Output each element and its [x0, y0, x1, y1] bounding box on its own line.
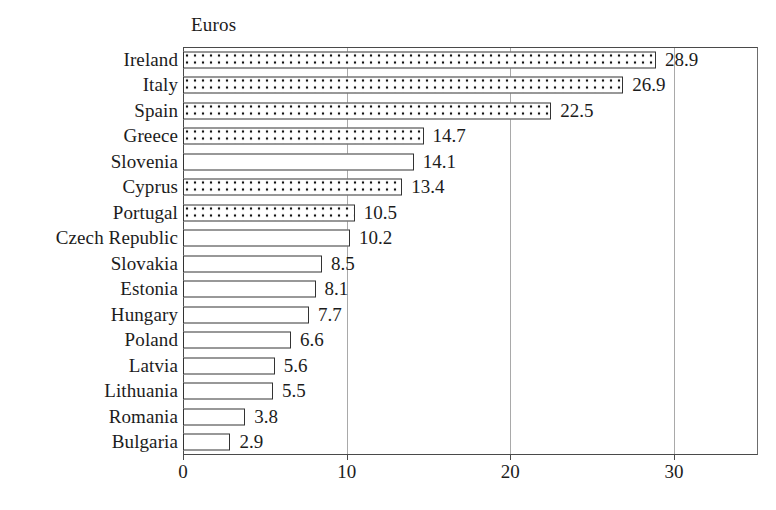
category-label: Latvia [129, 355, 178, 377]
bar-row: Slovenia14.1 [0, 149, 776, 175]
bar-row: Spain22.5 [0, 98, 776, 124]
bar-row: Italy26.9 [0, 73, 776, 99]
chart-page: Euros Ireland28.9Italy26.9Spain22.5Greec… [0, 0, 776, 510]
category-label: Ireland [124, 49, 179, 71]
bar-row: Poland6.6 [0, 328, 776, 354]
category-label: Greece [124, 125, 178, 147]
value-label: 8.1 [325, 278, 349, 300]
bar [183, 179, 402, 196]
xtick-label-30: 30 [665, 461, 684, 483]
xtick-label-10: 10 [337, 461, 356, 483]
bar-row: Romania3.8 [0, 404, 776, 430]
category-label: Czech Republic [56, 227, 178, 249]
bar-row: Hungary7.7 [0, 302, 776, 328]
bar-row: Slovakia8.5 [0, 251, 776, 277]
bar [183, 102, 551, 119]
value-label: 14.7 [433, 125, 466, 147]
category-label: Estonia [120, 278, 178, 300]
xtick-mark-0 [183, 455, 184, 460]
bar [183, 408, 245, 425]
category-label: Bulgaria [112, 431, 178, 453]
value-label: 14.1 [423, 151, 456, 173]
value-label: 6.6 [300, 329, 324, 351]
bar [183, 281, 316, 298]
bar-row: Portugal10.5 [0, 200, 776, 226]
value-label: 5.5 [282, 380, 306, 402]
bar-row: Estonia8.1 [0, 277, 776, 303]
value-label: 2.9 [239, 431, 263, 453]
xtick-label-0: 0 [178, 461, 188, 483]
bar [183, 230, 350, 247]
category-label: Romania [109, 406, 178, 428]
value-label: 13.4 [411, 176, 444, 198]
bar-row: Latvia5.6 [0, 353, 776, 379]
value-label: 28.9 [665, 49, 698, 71]
bar-row: Lithuania5.5 [0, 379, 776, 405]
value-label: 10.2 [359, 227, 392, 249]
bar [183, 357, 275, 374]
bar [183, 153, 414, 170]
xtick-mark-10 [347, 455, 348, 460]
bar-row: Bulgaria2.9 [0, 430, 776, 456]
category-label: Hungary [111, 304, 178, 326]
value-label: 5.6 [284, 355, 308, 377]
bar-row: Greece14.7 [0, 124, 776, 150]
bar [183, 128, 424, 145]
bar [183, 51, 656, 68]
bar-rows: Ireland28.9Italy26.9Spain22.5Greece14.7S… [0, 0, 776, 510]
bar-row: Czech Republic10.2 [0, 226, 776, 252]
category-label: Italy [143, 74, 178, 96]
bar-row: Ireland28.9 [0, 47, 776, 73]
category-label: Slovenia [111, 151, 178, 173]
value-label: 10.5 [364, 202, 397, 224]
category-label: Poland [125, 329, 178, 351]
value-label: 3.8 [254, 406, 278, 428]
bar [183, 77, 623, 94]
category-label: Slovakia [111, 253, 178, 275]
bar [183, 306, 309, 323]
value-label: 26.9 [632, 74, 665, 96]
xtick-label-20: 20 [501, 461, 520, 483]
category-label: Lithuania [104, 380, 178, 402]
xtick-mark-20 [510, 455, 511, 460]
bar [183, 204, 355, 221]
category-label: Spain [134, 100, 178, 122]
value-label: 7.7 [318, 304, 342, 326]
bar [183, 255, 322, 272]
bar-row: Cyprus13.4 [0, 175, 776, 201]
xtick-mark-30 [674, 455, 675, 460]
bar [183, 383, 273, 400]
bar [183, 434, 230, 451]
value-label: 8.5 [331, 253, 355, 275]
category-label: Portugal [113, 202, 178, 224]
value-label: 22.5 [560, 100, 593, 122]
bar [183, 332, 291, 349]
category-label: Cyprus [123, 176, 179, 198]
